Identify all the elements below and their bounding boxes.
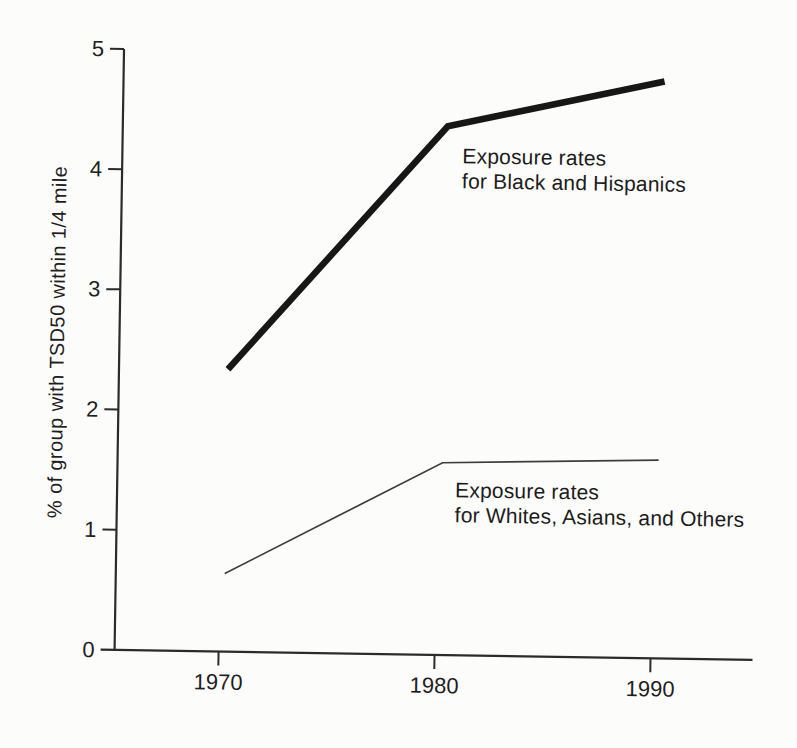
y-tick-label: 5 — [92, 36, 105, 61]
x-axis-line — [101, 650, 753, 660]
annotation-text-line: for Whites, Asians, and Others — [455, 502, 745, 532]
x-tick-label: 1990 — [625, 676, 674, 702]
chart-plot-area: 012345197019801990 — [0, 0, 797, 748]
y-tick-label: 1 — [84, 517, 97, 542]
series-line-black-hispanics — [228, 75, 665, 376]
y-axis-line — [115, 49, 124, 650]
annotation-whites-asians-others: Exposure rates for Whites, Asians, and O… — [455, 477, 745, 532]
exposure-rates-chart: 012345197019801990 % of group with TSD50… — [0, 0, 797, 748]
x-tick-label: 1980 — [409, 673, 458, 699]
y-tick-label: 0 — [82, 637, 95, 662]
annotation-black-hispanics: Exposure rates for Black and Hispanics — [462, 143, 687, 197]
y-tick-label: 3 — [88, 276, 101, 301]
annotation-text-line: for Black and Hispanics — [462, 168, 686, 197]
y-tick-label: 4 — [90, 156, 103, 181]
scanned-chart-page: 012345197019801990 % of group with TSD50… — [0, 0, 797, 748]
x-tick-label: 1970 — [193, 669, 242, 695]
annotation-text-line: Exposure rates — [462, 143, 686, 172]
y-tick-label: 2 — [86, 397, 99, 422]
